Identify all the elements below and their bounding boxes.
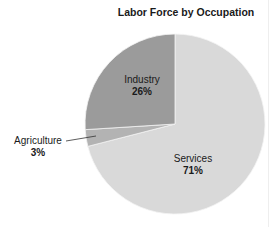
industry-name: Industry <box>112 74 172 86</box>
frame-edge <box>268 0 269 227</box>
services-label: Services 71% <box>163 153 223 177</box>
services-name: Services <box>163 153 223 165</box>
services-pct: 71% <box>163 165 223 177</box>
agriculture-name: Agriculture <box>8 135 68 147</box>
industry-label: Industry 26% <box>112 74 172 98</box>
agriculture-pct: 3% <box>8 147 68 159</box>
agriculture-label: Agriculture 3% <box>8 135 68 159</box>
pie-chart <box>0 0 272 227</box>
pie-slices <box>85 34 265 214</box>
industry-pct: 26% <box>112 86 172 98</box>
